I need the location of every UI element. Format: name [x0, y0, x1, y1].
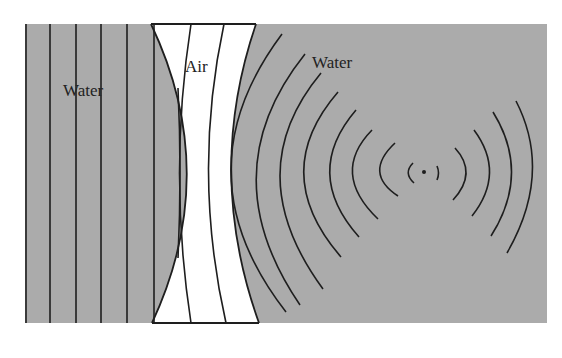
label-right-water: Water [312, 53, 352, 72]
point-source [422, 170, 426, 174]
water-background [25, 24, 547, 323]
label-air: Air [185, 57, 208, 76]
label-left-water: Water [63, 81, 103, 100]
wave-refraction-diagram: Water Air Water [0, 0, 562, 358]
